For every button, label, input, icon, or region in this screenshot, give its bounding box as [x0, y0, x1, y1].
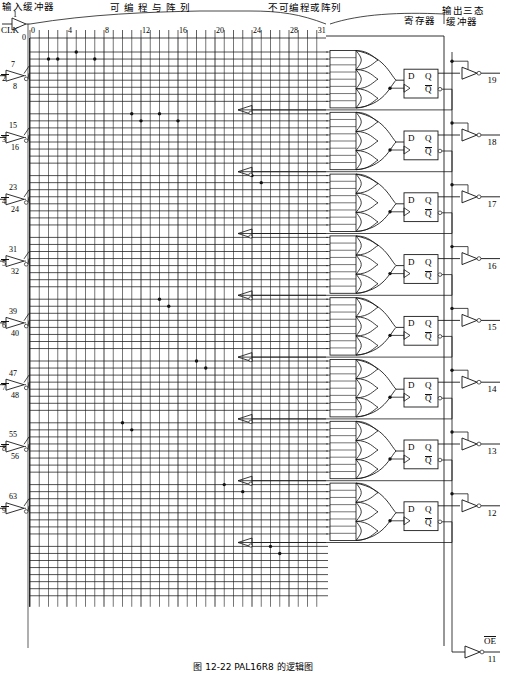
feedback-bubble-19	[249, 111, 252, 114]
register-clock-input-18	[404, 146, 410, 154]
or-gate-12-1	[356, 502, 378, 521]
register-clock-tap-16	[388, 272, 391, 275]
output-buffer-18	[462, 129, 477, 141]
fuse-dot-16	[223, 483, 226, 486]
register-clock-tap-18	[388, 148, 391, 151]
output-enable-wire-15	[452, 308, 468, 316]
output-enable-wire-14	[452, 370, 468, 378]
output-buffer-bubble-15	[477, 319, 481, 323]
fuse-dot-9	[260, 181, 263, 184]
register-clock-tap-17	[388, 210, 391, 213]
input-inverter-bubble-3	[24, 139, 28, 143]
output-buffer-bubble-14	[477, 380, 481, 384]
feedback-wire-14	[252, 398, 452, 419]
fuse-dot-2	[56, 57, 59, 60]
oe-input-buffer	[465, 646, 480, 658]
register-qbar-bubble-12	[438, 520, 442, 524]
register-clock-tap-13	[388, 457, 391, 460]
or-gate-14-1	[356, 379, 378, 398]
input-buffer-5	[6, 256, 24, 267]
or-gate-17-2	[356, 212, 378, 231]
register-13	[404, 440, 438, 469]
or-gate-16-2	[356, 274, 378, 293]
feedback-bubble-14	[249, 420, 252, 423]
output-buffer-14	[462, 376, 477, 388]
output-buffer-bubble-17	[477, 195, 481, 199]
oe-buffer-bubble	[480, 650, 484, 654]
register-qbar-bubble-14	[438, 396, 442, 400]
input-buffer-9	[6, 503, 24, 514]
output-buffer-17	[462, 191, 477, 203]
input-inverter-bubble-2	[24, 77, 28, 81]
feedback-wire-18	[252, 151, 452, 172]
register-qbar-bubble-15	[438, 335, 442, 339]
fuse-dot-18	[269, 545, 272, 548]
input-buffer-7	[6, 379, 24, 390]
fuse-dot-13	[204, 366, 207, 369]
output-buffer-19	[462, 67, 477, 79]
feedback-bubble-13	[249, 482, 252, 485]
register-clock-input-19	[404, 84, 410, 92]
or-gate-17-1	[356, 193, 378, 212]
feedback-bubble-17	[249, 235, 252, 238]
input-buffer-2	[6, 70, 24, 81]
or-array-brace	[330, 13, 444, 24]
output-buffer-13	[462, 438, 477, 450]
input-buffer-4	[6, 194, 24, 205]
or-gate-18-1	[356, 131, 378, 150]
output-buffer-bubble-12	[477, 504, 481, 508]
or-gate-16-1	[356, 255, 378, 274]
fuse-dot-0	[47, 57, 50, 60]
register-clock-input-15	[404, 331, 410, 339]
feedback-bubble-12	[249, 544, 252, 547]
input-inverter-bubble-4	[24, 201, 28, 205]
register-clock-input-17	[404, 208, 410, 216]
register-qbar-bubble-16	[438, 273, 442, 277]
fuse-dot-3	[93, 57, 96, 60]
feedback-bubble-16	[249, 297, 252, 300]
register-15	[404, 316, 438, 345]
register-qbar-bubble-18	[438, 149, 442, 153]
register-clock-input-12	[404, 517, 410, 525]
register-clock-tap-14	[388, 396, 391, 399]
feedback-bubble-15	[249, 359, 252, 362]
register-clock-input-14	[404, 393, 410, 401]
fuse-dot-1	[75, 50, 78, 53]
register-qbar-bubble-19	[438, 87, 442, 91]
fuse-dot-17	[241, 490, 244, 493]
pal16r8-logic-diagram: 可 编 程 与 阵 列不可编程或阵列输入缓冲器寄存器输出三态缓冲器1CLK004…	[0, 0, 506, 677]
feedback-wire-16	[252, 275, 452, 296]
register-18	[404, 131, 438, 160]
input-buffer-3	[6, 132, 24, 143]
feedback-wire-19	[252, 89, 452, 110]
register-clock-input-13	[404, 455, 410, 463]
output-buffer-16	[462, 253, 477, 265]
output-enable-wire-19	[452, 61, 468, 69]
feedback-bubble-18	[249, 173, 252, 176]
feedback-wire-12	[252, 522, 452, 543]
output-enable-wire-16	[452, 247, 468, 255]
or-gate-15-1	[356, 317, 378, 336]
output-enable-wire-12	[452, 494, 468, 502]
input-inverter-bubble-6	[24, 324, 28, 328]
output-buffer-bubble-16	[477, 257, 481, 261]
register-clock-tap-19	[388, 87, 391, 90]
fuse-dot-19	[278, 552, 281, 555]
feedback-wire-15	[252, 336, 452, 357]
register-19	[404, 69, 438, 98]
input-inverter-bubble-8	[24, 448, 28, 452]
or-gate-19-2	[356, 89, 378, 108]
register-12	[404, 502, 438, 531]
input-inverter-bubble-9	[24, 510, 28, 514]
or-gate-15-2	[356, 336, 378, 355]
fuse-dot-7	[176, 119, 179, 122]
or-gate-14-2	[356, 398, 378, 417]
and-array-brace	[30, 11, 326, 24]
feedback-wire-17	[252, 213, 452, 234]
fuse-dot-12	[195, 359, 198, 362]
fuse-dot-10	[158, 298, 161, 301]
output-buffer-bubble-18	[477, 133, 481, 137]
fuse-dot-4	[130, 112, 133, 115]
fuse-dot-14	[121, 421, 124, 424]
output-enable-wire-17	[452, 185, 468, 193]
